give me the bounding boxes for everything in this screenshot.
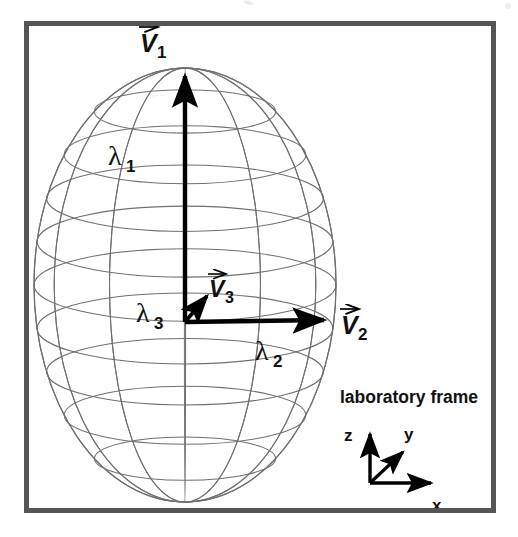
figure-background: [0, 0, 518, 537]
laboratory-frame-caption: laboratory frame: [340, 387, 478, 407]
vector-v1-subscript: 1: [157, 43, 166, 62]
lambda3-subscript: 3: [154, 314, 163, 333]
vector-v2-shaft: [185, 320, 324, 322]
lambda1-subscript: 1: [126, 157, 135, 176]
lambda1-symbol: λ: [108, 140, 122, 171]
principal-axes-ellipsoid-diagram: V 1 V 2 V 3 λ 1 λ 3 λ 2 laboratory frame: [0, 0, 518, 537]
lambda2-subscript: 2: [273, 352, 282, 371]
lab-axis-y-label: y: [404, 425, 414, 444]
lambda3-symbol: λ: [136, 297, 150, 328]
lambda2-symbol: λ: [255, 335, 269, 366]
vector-v3-subscript: 3: [225, 289, 234, 306]
lab-axis-z-label: z: [344, 426, 353, 445]
vector-v3-label: V: [209, 276, 226, 302]
vector-v2-subscript: 2: [358, 325, 367, 344]
